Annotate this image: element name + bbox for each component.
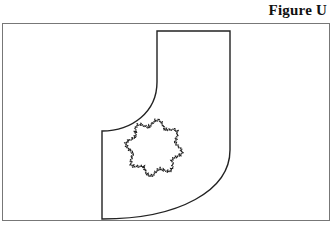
- j-shaped-region: [102, 31, 230, 219]
- diagram-canvas: [0, 0, 333, 232]
- flower-curve: [125, 119, 183, 177]
